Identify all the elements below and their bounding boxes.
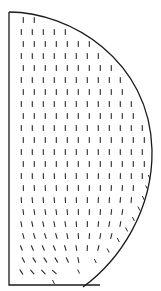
vector-arrow bbox=[21, 246, 23, 251]
vector-field-figure bbox=[0, 0, 161, 291]
vector-arrow bbox=[31, 270, 34, 274]
boundary-tick bbox=[138, 207, 140, 211]
vector-arrow bbox=[122, 210, 123, 215]
vector-arrow bbox=[34, 210, 35, 215]
vector-arrow bbox=[100, 234, 101, 239]
boundary-tick bbox=[126, 228, 128, 232]
vector-arrow bbox=[22, 258, 24, 262]
vector-arrow bbox=[98, 222, 99, 227]
vector-arrow bbox=[65, 222, 66, 227]
vector-arrow bbox=[98, 246, 99, 251]
boundary-tick bbox=[94, 259, 96, 263]
vector-arrow bbox=[120, 222, 121, 227]
vector-arrow bbox=[67, 234, 68, 239]
boundary-tick bbox=[146, 186, 148, 190]
vector-arrow bbox=[53, 246, 55, 251]
vector-field bbox=[20, 18, 150, 285]
vector-arrow bbox=[76, 246, 77, 251]
vector-arrow bbox=[43, 222, 44, 227]
vector-arrow bbox=[56, 210, 57, 215]
vector-arrow bbox=[66, 258, 68, 263]
vector-arrow bbox=[111, 210, 112, 215]
boundary-tick bbox=[117, 238, 119, 242]
vector-arrow bbox=[54, 222, 55, 227]
vector-arrow bbox=[34, 234, 36, 239]
vector-arrow bbox=[44, 258, 47, 262]
vector-arrow bbox=[23, 210, 24, 215]
vector-arrow bbox=[23, 234, 24, 239]
vector-arrow bbox=[20, 270, 23, 274]
vector-arrow bbox=[78, 258, 79, 263]
vector-arrow bbox=[21, 222, 22, 227]
vector-arrow bbox=[32, 222, 33, 227]
boundary-tick bbox=[132, 217, 134, 221]
boundary-tick bbox=[78, 270, 80, 274]
domain-boundary bbox=[9, 12, 152, 287]
vector-arrow bbox=[42, 270, 46, 274]
vector-arrow bbox=[109, 222, 110, 227]
vector-arrow bbox=[45, 210, 46, 215]
vector-arrow bbox=[33, 258, 36, 262]
vector-arrow bbox=[53, 270, 57, 273]
boundary-tick bbox=[142, 196, 144, 200]
vector-arrow bbox=[55, 258, 58, 262]
vector-arrow bbox=[56, 234, 57, 239]
vector-arrow bbox=[111, 234, 112, 239]
vector-arrow bbox=[65, 246, 66, 251]
boundary-tick bbox=[107, 249, 109, 253]
vector-arrow bbox=[31, 246, 33, 251]
boundary-tick bbox=[53, 280, 55, 284]
vector-arrow bbox=[45, 234, 47, 239]
vector-arrow bbox=[42, 246, 44, 251]
